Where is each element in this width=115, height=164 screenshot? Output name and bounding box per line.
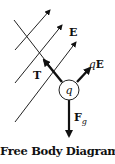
gravity-label: Fg	[74, 111, 87, 126]
tension-label: T	[33, 69, 42, 82]
charge-label: q	[65, 84, 72, 97]
electric-force-label: qE	[89, 58, 104, 70]
free-body-diagram: T qE E Fg q	[0, 0, 115, 164]
diagram-caption: Free Body Diagram	[0, 144, 115, 158]
field-label: E	[69, 26, 77, 39]
electric-force-arrow	[77, 68, 90, 82]
electric-field-lines	[15, 10, 76, 122]
